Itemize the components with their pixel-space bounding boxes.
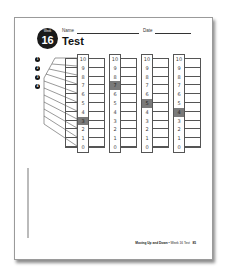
cell[interactable]: 10 bbox=[78, 55, 88, 64]
cell[interactable]: 9 bbox=[78, 64, 88, 73]
worksheet-page: Week 16 Name Date Test 1 2 3 4 bbox=[14, 17, 213, 260]
cell[interactable]: 10 bbox=[142, 55, 152, 64]
cell[interactable]: 9 bbox=[142, 64, 152, 73]
highlighted-cell[interactable]: 4 bbox=[174, 108, 184, 117]
cell[interactable]: 2 bbox=[174, 125, 184, 134]
cell[interactable]: 0 bbox=[174, 143, 184, 152]
cell[interactable]: 8 bbox=[174, 73, 184, 82]
ladder-3-right-rungs bbox=[152, 58, 169, 148]
cell[interactable]: 7 bbox=[78, 81, 88, 90]
cell[interactable]: 0 bbox=[78, 143, 88, 152]
cell[interactable]: 10 bbox=[174, 55, 184, 64]
cell[interactable]: 4 bbox=[142, 108, 152, 117]
ladder-1-right-rungs bbox=[88, 58, 105, 148]
question-bullet-1: 1 bbox=[35, 57, 40, 62]
cell[interactable]: 1 bbox=[142, 134, 152, 143]
cell[interactable]: 8 bbox=[110, 73, 120, 82]
cell[interactable]: 5 bbox=[110, 99, 120, 108]
name-field[interactable] bbox=[77, 33, 139, 34]
highlighted-cell[interactable]: 3 bbox=[78, 117, 88, 126]
copyright-vertical-text bbox=[27, 168, 29, 238]
highlighted-cell[interactable]: 5 bbox=[142, 99, 152, 108]
cell[interactable]: 9 bbox=[174, 64, 184, 73]
ladder-4-right-rungs bbox=[184, 58, 201, 148]
question-bullet-2: 2 bbox=[35, 66, 40, 71]
cell[interactable]: 1 bbox=[78, 134, 88, 143]
week-badge: Week 16 bbox=[37, 28, 58, 49]
cell[interactable]: 6 bbox=[174, 90, 184, 99]
cell[interactable]: 6 bbox=[110, 90, 120, 99]
cell[interactable]: 2 bbox=[110, 125, 120, 134]
cell[interactable]: 5 bbox=[174, 99, 184, 108]
week-number: 16 bbox=[37, 34, 58, 46]
cell[interactable]: 3 bbox=[110, 117, 120, 126]
cell[interactable]: 3 bbox=[174, 117, 184, 126]
footer-section: Week 16 Test bbox=[171, 241, 190, 245]
cell[interactable]: 4 bbox=[110, 108, 120, 117]
page-number: 85 bbox=[192, 241, 196, 245]
cell[interactable]: 1 bbox=[174, 134, 184, 143]
date-field[interactable] bbox=[155, 33, 191, 34]
cell[interactable]: 10 bbox=[110, 55, 120, 64]
cell[interactable]: 7 bbox=[142, 81, 152, 90]
week-label: Week bbox=[37, 30, 58, 33]
highlighted-cell[interactable]: 7 bbox=[110, 81, 120, 90]
question-bullet-4: 4 bbox=[35, 84, 40, 89]
cell[interactable]: 3 bbox=[142, 117, 152, 126]
cell[interactable]: 1 bbox=[110, 134, 120, 143]
footer-unit: Moving Up and Down bbox=[135, 241, 167, 245]
page-footer: Moving Up and Down • Week 16 Test 85 bbox=[135, 241, 196, 245]
cell[interactable]: 6 bbox=[142, 90, 152, 99]
cell[interactable]: 2 bbox=[78, 125, 88, 134]
cell[interactable]: 2 bbox=[142, 125, 152, 134]
question-bullet-3: 3 bbox=[35, 75, 40, 80]
cell[interactable]: 8 bbox=[142, 73, 152, 82]
page-title: Test bbox=[62, 35, 84, 47]
date-label: Date bbox=[143, 28, 153, 33]
cell[interactable]: 0 bbox=[110, 143, 120, 152]
cell[interactable]: 5 bbox=[78, 99, 88, 108]
cell[interactable]: 6 bbox=[78, 90, 88, 99]
cell[interactable]: 8 bbox=[78, 73, 88, 82]
cell[interactable]: 0 bbox=[142, 143, 152, 152]
cell[interactable]: 7 bbox=[174, 81, 184, 90]
cell[interactable]: 9 bbox=[110, 64, 120, 73]
ladder-2-right-rungs bbox=[120, 58, 137, 148]
name-label: Name bbox=[62, 28, 74, 33]
cell[interactable]: 4 bbox=[78, 108, 88, 117]
